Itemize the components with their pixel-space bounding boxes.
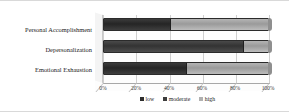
x-tick-label-80: 80% bbox=[220, 85, 250, 91]
category-label-emotional-exhaustion: Emotional Exhaustion bbox=[0, 66, 92, 73]
bar-cap bbox=[268, 18, 272, 31]
bar-segment-high bbox=[170, 19, 269, 30]
category-axis: Personal Accomplishment Depersonalizatio… bbox=[0, 19, 94, 81]
bar-track-personal-accomplishment bbox=[103, 18, 270, 31]
plot-area bbox=[103, 15, 270, 83]
x-tick-label-100: 100% bbox=[253, 85, 283, 91]
bar-segment-high bbox=[243, 41, 269, 52]
chart-figure: Personal Accomplishment Depersonalizatio… bbox=[0, 0, 289, 112]
legend-item-low[interactable]: low bbox=[140, 96, 154, 102]
category-label-depersonalization: Depersonalization bbox=[0, 46, 92, 53]
x-axis-line bbox=[103, 83, 270, 84]
chart-legend: low moderate high bbox=[140, 96, 215, 102]
x-tick-label-0: 0% bbox=[88, 85, 118, 91]
legend-swatch-icon bbox=[163, 97, 167, 101]
bar-track-depersonalization bbox=[103, 40, 270, 53]
x-tick-label-20: 20% bbox=[121, 85, 151, 91]
bar-segment-low bbox=[104, 19, 170, 30]
x-tick-label-60: 60% bbox=[187, 85, 217, 91]
legend-item-high[interactable]: high bbox=[199, 96, 215, 102]
bar-track-emotional-exhaustion bbox=[103, 62, 270, 75]
bar-cap bbox=[268, 40, 272, 53]
bar-cap bbox=[268, 62, 272, 75]
x-axis-tick-labels: 0% 20% 40% 60% 80% 100% bbox=[88, 85, 288, 95]
legend-swatch-icon bbox=[140, 97, 144, 101]
category-label-personal-accomplishment: Personal Accomplishment bbox=[0, 26, 92, 33]
bar-segment-moderate bbox=[104, 41, 243, 52]
legend-swatch-icon bbox=[199, 97, 203, 101]
bar-segment-high bbox=[186, 63, 269, 74]
legend-item-moderate[interactable]: moderate bbox=[163, 96, 190, 102]
legend-label-low: low bbox=[146, 96, 155, 102]
x-tick-label-40: 40% bbox=[154, 85, 184, 91]
legend-label-moderate: moderate bbox=[169, 96, 191, 102]
plot-left-wall bbox=[95, 12, 103, 83]
bar-segment-low bbox=[104, 63, 186, 74]
legend-label-high: high bbox=[205, 96, 215, 102]
